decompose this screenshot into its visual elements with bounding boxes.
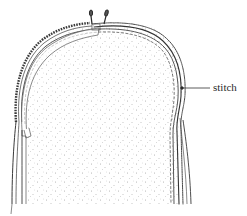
thread-ends-icon: [89, 10, 108, 24]
stitch-label: stitch: [213, 82, 237, 93]
fabric-fill: [0, 0, 247, 216]
sewing-diagram: [0, 0, 247, 216]
